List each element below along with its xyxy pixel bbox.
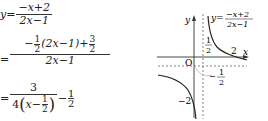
horizontal-asymptote-numerator: 1 [219,68,224,77]
coef-numerator: 1 [34,35,40,44]
equals-sign: = [6,8,15,21]
y-intercept-label: −2 [178,96,191,106]
horizontal-asymptote-sign: − [209,72,216,81]
fraction: − 1 2 (2x−1) + 3 2 2x−1 [10,34,110,67]
plus-sign: + [79,34,88,54]
graph-canvas: y x O 1 2 2 − 1 2 −2 y= −x+2 2x−1 [150,0,268,121]
den-frac-numerator: 1 [42,95,48,104]
derivation-line-2: = − 1 2 (2x−1) + 3 2 2x−1 [0,34,111,67]
numerator: 3 [28,82,39,94]
coef-denominator: 2 [34,45,40,54]
derivation-line-1: y = −x+2 2x−1 [0,2,53,27]
den-variable: x− [25,99,40,111]
minus-sign: − [24,34,33,54]
den-frac-denominator: 2 [42,105,48,114]
minus-sign: − [58,92,67,105]
fraction: 3 4 ( x− 1 2 ) [10,82,57,114]
derivation-line-3: = 3 4 ( x− 1 2 ) − 1 2 [0,82,75,114]
paren-term: (2x−1) [41,34,79,54]
equals-sign: = [0,92,9,105]
den-coefficient: 4 [12,99,19,111]
const-denominator: 2 [89,45,95,54]
curve-label-lhs: y= [210,13,224,23]
numerator: −x+2 [16,2,52,14]
const-numerator: 1 [68,89,74,98]
equals-sign: = [0,53,9,66]
denominator: 2x−1 [44,55,77,67]
coefficient-fraction: 1 2 [34,35,40,54]
y-axis-label: y [184,15,191,25]
curve-label-numerator: −x+2 [226,10,249,19]
right-paren: ) [49,98,55,112]
horizontal-asymptote-denominator: 2 [219,78,224,87]
denominator: 4 ( x− 1 2 ) [10,95,57,114]
vertical-asymptote-numerator: 1 [206,36,211,45]
origin-label: O [185,58,192,68]
fraction: −x+2 2x−1 [16,2,52,27]
constant-fraction: 3 2 [89,35,95,54]
vertical-asymptote-denominator: 2 [206,46,211,55]
y-axis-arrow-icon [192,15,196,21]
constant-fraction: 1 2 [68,89,74,108]
const-denominator: 2 [68,99,74,108]
x-intercept-label: 2 [231,46,237,56]
const-numerator: 3 [89,35,95,44]
derivation: y = −x+2 2x−1 = − 1 2 (2x−1) + 3 [0,0,150,121]
den-fraction: 1 2 [42,95,48,114]
numerator: − 1 2 (2x−1) + 3 2 [22,34,98,54]
curve-label-denominator: 2x−1 [226,20,248,29]
denominator: 2x−1 [18,15,51,27]
x-axis-label: x [243,47,248,57]
hyperbola-graph: y x O 1 2 2 − 1 2 −2 y= −x+2 2x−1 [150,0,268,121]
